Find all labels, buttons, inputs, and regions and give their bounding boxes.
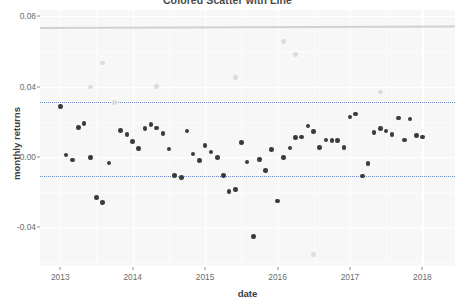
scatter-point bbox=[130, 139, 135, 144]
scatter-point bbox=[233, 75, 238, 80]
scatter-point bbox=[251, 234, 256, 239]
scatter-point bbox=[408, 117, 413, 122]
scatter-point bbox=[378, 90, 383, 95]
scatter-point bbox=[197, 158, 202, 163]
y-axis-tick-mark bbox=[37, 156, 40, 157]
gridline-horizontal bbox=[40, 157, 455, 158]
y-axis-tick-label: 0.08 bbox=[0, 11, 36, 21]
scatter-point bbox=[288, 146, 293, 151]
scatter-point bbox=[311, 252, 316, 257]
scatter-point bbox=[348, 115, 353, 120]
scatter-point bbox=[154, 126, 159, 131]
scatter-point bbox=[233, 187, 238, 192]
scatter-point bbox=[172, 173, 177, 178]
scatter-point bbox=[420, 135, 425, 140]
scatter-point bbox=[335, 138, 340, 143]
x-axis-tick-mark bbox=[277, 267, 278, 270]
scatter-point bbox=[396, 116, 401, 121]
scatter-point bbox=[82, 121, 87, 126]
scatter-point bbox=[136, 146, 141, 151]
gridline-vertical bbox=[350, 10, 351, 266]
x-axis-tick-mark bbox=[349, 267, 350, 270]
y-axis-tick-label: 0.04 bbox=[0, 82, 36, 92]
scatter-point bbox=[209, 150, 214, 155]
gridline-vertical bbox=[60, 10, 61, 266]
scatter-point bbox=[100, 200, 105, 205]
scatter-point bbox=[70, 158, 75, 163]
scatter-point bbox=[191, 152, 196, 157]
x-axis-label: date bbox=[40, 288, 455, 299]
scatter-point bbox=[179, 175, 184, 180]
scatter-point bbox=[402, 138, 407, 143]
reference-line bbox=[40, 176, 455, 177]
scatter-point bbox=[390, 132, 395, 137]
x-axis-tick-label: 2014 bbox=[123, 272, 142, 282]
y-axis-tick-mark bbox=[37, 86, 40, 87]
scatter-point bbox=[100, 61, 105, 66]
scatter-point bbox=[125, 132, 130, 137]
y-axis-label: monthly returns bbox=[11, 74, 22, 214]
x-axis-tick-mark bbox=[132, 267, 133, 270]
gridline-horizontal-minor bbox=[40, 262, 455, 263]
scatter-point bbox=[112, 100, 117, 105]
scatter-point bbox=[185, 129, 190, 134]
scatter-point bbox=[342, 145, 347, 150]
scatter-point bbox=[372, 130, 377, 135]
scatter-point bbox=[281, 155, 286, 160]
scatter-point bbox=[203, 143, 208, 148]
x-axis-tick-label: 2017 bbox=[341, 272, 360, 282]
y-axis-tick-label: -0.04 bbox=[0, 222, 36, 232]
scatter-point bbox=[269, 147, 274, 152]
scatter-point bbox=[88, 155, 93, 160]
gridline-horizontal-minor bbox=[40, 51, 455, 52]
scatter-point bbox=[275, 199, 280, 204]
scatter-point bbox=[281, 39, 286, 44]
y-axis-tick-mark bbox=[37, 227, 40, 228]
scatter-point bbox=[58, 104, 63, 109]
y-axis-tick-label: 0.00 bbox=[0, 152, 36, 162]
scatter-point bbox=[378, 126, 383, 131]
scatter-point bbox=[76, 125, 81, 130]
gridline-horizontal bbox=[40, 87, 455, 88]
scatter-point bbox=[221, 173, 226, 178]
gridline-vertical bbox=[205, 10, 206, 266]
scatter-point bbox=[94, 195, 99, 200]
scatter-point bbox=[311, 129, 316, 134]
gridline-horizontal-minor bbox=[40, 122, 455, 123]
scatter-point bbox=[167, 147, 172, 152]
scatter-point bbox=[245, 160, 250, 165]
chart-title: Colored Scatter with Line bbox=[0, 0, 455, 6]
chart-root: Colored Scatter with Line date monthly r… bbox=[0, 0, 455, 307]
scatter-point bbox=[227, 189, 232, 194]
gridline-vertical-minor bbox=[241, 10, 242, 266]
scatter-point bbox=[317, 145, 322, 150]
x-axis-tick-label: 2015 bbox=[196, 272, 215, 282]
scatter-point bbox=[161, 131, 166, 136]
scatter-point bbox=[293, 52, 298, 57]
scatter-point bbox=[360, 174, 365, 179]
scatter-point bbox=[88, 85, 93, 90]
scatter-point bbox=[366, 161, 371, 166]
gridline-vertical bbox=[133, 10, 134, 266]
x-axis-tick-mark bbox=[205, 267, 206, 270]
scatter-point bbox=[154, 84, 159, 89]
scatter-point bbox=[353, 112, 358, 117]
scatter-point bbox=[257, 157, 262, 162]
scatter-point bbox=[149, 122, 154, 127]
scatter-point bbox=[299, 135, 304, 140]
y-axis-tick-mark bbox=[37, 16, 40, 17]
scatter-point bbox=[263, 168, 268, 173]
x-axis-tick-mark bbox=[60, 267, 61, 270]
scatter-point bbox=[330, 138, 335, 143]
scatter-point bbox=[239, 140, 244, 145]
x-axis-tick-label: 2018 bbox=[413, 272, 432, 282]
scatter-point bbox=[118, 128, 123, 133]
scatter-point bbox=[107, 161, 112, 166]
gridline-horizontal bbox=[40, 16, 455, 17]
x-axis-tick-mark bbox=[422, 267, 423, 270]
scatter-point bbox=[384, 129, 389, 134]
gridline-horizontal-minor bbox=[40, 192, 455, 193]
gridline-vertical-minor bbox=[169, 10, 170, 266]
gridline-vertical-minor bbox=[96, 10, 97, 266]
scatter-point bbox=[293, 135, 298, 140]
